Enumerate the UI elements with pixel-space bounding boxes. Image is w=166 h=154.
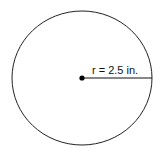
center-point — [79, 75, 84, 80]
circle-diagram: r = 2.5 in. — [0, 0, 166, 154]
radius-label: r = 2.5 in. — [92, 64, 138, 76]
